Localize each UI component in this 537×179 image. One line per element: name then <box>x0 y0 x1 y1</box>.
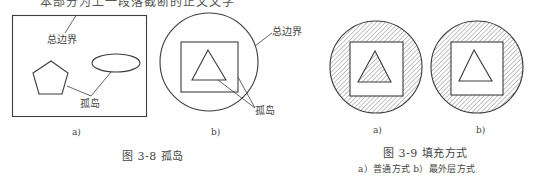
island-label-b: 孤岛 <box>255 106 275 116</box>
outer-boundary-label-b: 总边界 <box>272 27 302 37</box>
pentagon-island <box>33 61 68 94</box>
fig-3-9-panel-a-drawing <box>330 21 422 113</box>
fig-3-9-sublabel-a: a) <box>373 126 382 135</box>
island-leader-line <box>67 72 111 96</box>
island-square <box>181 42 238 92</box>
fig-3-9-subcaption: a）普通方式 b）最外层方式 <box>358 165 475 174</box>
fig-3-9-panel-b-drawing <box>431 21 523 113</box>
outer-boundary-label-a: 总边界 <box>47 35 77 45</box>
island-label-a: 孤岛 <box>80 99 100 109</box>
fig-3-9-sublabel-b: b) <box>476 126 485 135</box>
fig-3-9-caption: 图 3-9 填充方式 <box>383 148 468 159</box>
island-leader-line-triangle <box>218 80 255 108</box>
fig-3-8-panel-b-drawing <box>160 13 272 111</box>
outer-boundary-leader-line <box>255 33 272 46</box>
fig-3-8-sublabel-b: b) <box>211 128 220 137</box>
island-leader-line-square <box>238 77 255 108</box>
outer-boundary-leader-line <box>65 16 76 34</box>
outer-boundary-circle <box>160 13 258 111</box>
fig-3-8-sublabel-a: a) <box>72 128 81 137</box>
ellipse-island <box>92 54 140 72</box>
fig-3-8-caption: 图 3-8 孤岛 <box>122 151 184 162</box>
island-triangle <box>192 50 226 80</box>
